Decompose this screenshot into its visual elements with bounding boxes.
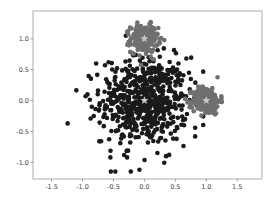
data-point	[153, 117, 158, 122]
x-tick-label: 0.0	[139, 183, 149, 191]
data-point	[135, 39, 140, 44]
data-point	[174, 137, 179, 142]
data-point	[193, 101, 198, 106]
data-point	[97, 103, 102, 108]
data-point	[150, 98, 155, 103]
data-point	[103, 103, 108, 108]
data-point	[167, 153, 172, 158]
x-tick-label: 0.5	[170, 183, 180, 191]
data-point	[176, 115, 181, 120]
data-point	[146, 71, 151, 76]
data-point	[109, 129, 114, 134]
data-point	[148, 90, 153, 95]
data-point	[161, 122, 166, 127]
data-point	[187, 99, 192, 104]
data-point	[158, 54, 163, 59]
data-point	[165, 105, 170, 110]
data-point	[128, 140, 133, 145]
data-point	[135, 20, 140, 25]
data-point	[220, 99, 225, 104]
y-tick-label: 1.0	[19, 35, 29, 43]
data-point	[155, 48, 160, 53]
data-point	[112, 91, 117, 96]
data-point	[189, 77, 194, 82]
data-point	[152, 130, 157, 135]
data-point	[134, 82, 139, 87]
data-point	[128, 63, 133, 68]
data-point	[108, 97, 113, 102]
data-point	[180, 78, 185, 83]
data-point	[142, 47, 147, 52]
data-point	[127, 96, 132, 101]
data-point	[168, 131, 173, 136]
data-point	[115, 119, 120, 124]
data-point	[128, 39, 133, 44]
data-point	[134, 24, 139, 29]
data-point	[193, 134, 198, 139]
data-point	[209, 97, 214, 102]
data-point	[135, 66, 140, 71]
data-point	[145, 125, 150, 130]
data-point	[162, 160, 167, 165]
data-point	[148, 20, 153, 25]
data-point	[130, 113, 135, 118]
data-point	[109, 108, 114, 113]
data-point	[146, 129, 151, 134]
data-point	[102, 89, 107, 94]
data-point	[196, 88, 201, 93]
x-tick-label: -1.5	[45, 183, 58, 191]
data-point	[94, 61, 99, 66]
data-point	[114, 129, 119, 134]
data-point	[181, 144, 186, 149]
data-point	[108, 148, 113, 153]
data-point	[191, 109, 196, 114]
data-point	[142, 76, 147, 81]
data-point	[128, 134, 133, 139]
data-point	[213, 101, 218, 106]
data-point	[159, 66, 164, 71]
data-point	[156, 139, 161, 144]
data-point	[74, 88, 79, 93]
data-point	[136, 115, 141, 120]
data-point	[138, 75, 143, 80]
data-point	[103, 63, 108, 68]
data-point	[133, 100, 138, 105]
data-point	[122, 134, 127, 139]
data-point	[155, 151, 160, 156]
data-point	[163, 138, 168, 143]
data-point	[187, 70, 192, 75]
data-point	[173, 94, 178, 99]
data-point	[122, 115, 127, 120]
data-point	[182, 123, 187, 128]
data-point	[135, 107, 140, 112]
data-point	[109, 102, 114, 107]
data-point	[157, 81, 162, 86]
data-point	[201, 123, 206, 128]
data-point	[142, 29, 147, 34]
data-point	[65, 121, 70, 126]
data-point	[142, 158, 147, 163]
data-point	[165, 124, 170, 129]
data-point	[198, 102, 203, 107]
data-point	[124, 149, 129, 154]
data-point	[139, 122, 144, 127]
data-point	[95, 73, 100, 78]
data-point	[135, 128, 140, 133]
data-point	[179, 107, 184, 112]
data-point	[215, 75, 220, 80]
data-point	[131, 51, 136, 56]
data-point	[162, 46, 167, 51]
data-point	[109, 169, 114, 174]
data-point	[148, 76, 153, 81]
data-point	[151, 139, 156, 144]
data-point	[99, 139, 104, 144]
data-point	[133, 74, 138, 79]
data-point	[132, 120, 137, 125]
data-point	[113, 169, 118, 174]
x-tick-label: 1.0	[201, 183, 211, 191]
data-point	[105, 116, 110, 121]
data-point	[113, 113, 118, 118]
data-point	[120, 68, 125, 73]
data-point	[153, 93, 158, 98]
data-point	[158, 116, 163, 121]
